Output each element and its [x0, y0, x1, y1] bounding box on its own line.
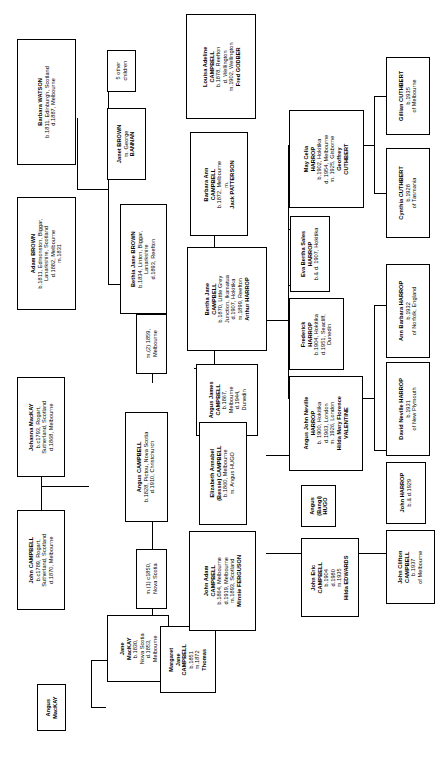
node-text-line: m.1935 [337, 555, 344, 599]
node-text-line: b.1904, Hokitika [313, 314, 320, 355]
node-text-line: b.1904 [323, 555, 330, 599]
node-text-line: m. [222, 160, 229, 208]
connector [41, 486, 76, 487]
node-angus-john-neville-harrop[interactable]: Angus John NevilleHARROPb. 1900, Hokitik… [289, 376, 363, 471]
node-text-line: b.1937 [410, 550, 417, 583]
node-john-campbell[interactable]: John CAMPBELLb.c1789, Rogart,Sutherland,… [17, 510, 65, 610]
node-text-line: of Norfolk, England [411, 281, 418, 341]
node-text-line: m.1831 [56, 219, 63, 289]
node-johanna-mackay[interactable]: Johanna MacKAYb.c1793, Rogart,Sutherland… [17, 377, 65, 477]
node-text: FrederickHARROPb.1904, Hokitikad.1951, S… [300, 314, 333, 355]
node-gillian-cuthbert[interactable]: Gillian CUTHBERTb.1935of Melbourne [386, 57, 430, 135]
node-john-eric-campbell[interactable]: John EricCAMPBELLb.1904d.1980m.1935Hilda… [301, 538, 359, 617]
node-text-line: m. 1926, London [329, 396, 336, 450]
connector [91, 660, 92, 708]
node-text: JaneMacKAYb.1830,Nova Scotiad.1853,Melbo… [118, 633, 158, 664]
node-text-line: Ann Barbara HARROP [398, 281, 405, 341]
node-eva-bertha-sales-harrop[interactable]: Eva Bertha SalesHARROPb.& d. 1907, Hokit… [290, 216, 330, 292]
node-text: John AdamCAMPBELLb.1864, Melbourned.1919… [203, 555, 243, 607]
connector [359, 553, 386, 554]
node-text-line: b.1811, Edmonston, Biggar, [37, 219, 44, 289]
node-text-line: Bethia Jane BROWN [130, 230, 137, 287]
node-david-neville-harrop[interactable]: David Neville HARROPb.1931of New Plymout… [386, 362, 430, 456]
node-text-line: Jack PATTERSON [229, 160, 236, 208]
node-text-line: Margaret [168, 644, 175, 675]
node-text-line: John Adam [203, 555, 210, 607]
node-text-line: b.1864, Melbourne [216, 555, 223, 607]
node-barbara-ann-campbell[interactable]: Barbara AnnCAMPBELLb.1872, Melbournem.Ja… [190, 132, 248, 236]
node-elizabeth-annabel-campbell[interactable]: Elizabeth Annabel(Bessie) CAMPBELLb.1860… [199, 422, 247, 525]
connector [374, 305, 386, 306]
node-text: AngusMacKAY [45, 696, 58, 718]
connector [75, 486, 89, 487]
node-marriage-1[interactable]: m.(1) c1850,Nova Scotia [136, 549, 167, 609]
node-text-line: HARROP [310, 396, 317, 450]
node-text: Janet BROWNm. GeorgeBANNAN [117, 125, 137, 163]
node-text-line: Fred GODBER [234, 42, 241, 91]
node-text-line: b.& d. 1907, Hokitika [313, 228, 320, 281]
node-janet-brown[interactable]: Janet BROWNm. GeorgeBANNAN [107, 108, 146, 180]
node-text-line: m.(1) c1850, [145, 563, 152, 595]
node-text-line: of Tasmania [411, 166, 418, 220]
node-cynthia-cuthbert[interactable]: Cynthia CUTHBERTb.1928of Tasmania [386, 148, 430, 238]
node-john-adam-campbell[interactable]: John AdamCAMPBELLb.1864, Melbourned.1919… [189, 531, 256, 631]
node-text-line: d.1870, Melbourne [48, 534, 55, 587]
node-text-line: HARROP [307, 228, 314, 281]
node-bertha-jane-campbell[interactable]: Bertha JaneCAMPBELLb.1870, Little GreyJu… [187, 247, 267, 351]
node-margaret-jane-campbell[interactable]: MargaretJaneCAMPBELLb.1851m.1872Thomas [160, 626, 216, 693]
node-may-celia-harrop[interactable]: May CeliaHARROPb.1902, Hokitikad. 1954, … [289, 110, 364, 208]
node-text: David Neville HARROPb.1931of New Plymout… [398, 378, 418, 440]
node-text: Barbara AnnCAMPBELLb.1872, Melbournem.Ja… [203, 160, 236, 208]
connector [374, 450, 386, 451]
node-text-line: CAMPBELL [208, 42, 215, 91]
node-text-line: d.1887, Melbourne [50, 66, 57, 138]
connector [77, 118, 78, 190]
node-text: Louisa AdelineCAMPBELLb.1878, Reeftond. … [201, 42, 241, 91]
node-adam-brown[interactable]: Adam BROWNb.1811, Edmonston, Biggar,Lana… [17, 197, 76, 310]
node-text-line: d. Wellington [221, 42, 228, 91]
node-text: Angus JamesCAMPBELLb.1867,Melbourned.194… [207, 382, 247, 419]
node-text-line: Angus James [207, 382, 214, 419]
node-frederick-harrop[interactable]: FrederickHARROPb.1904, Hokitikad.1951, S… [289, 298, 344, 370]
node-john-clifton-campbell[interactable]: John CliftonCAMPBELLb.1937of Melbourne [386, 530, 435, 604]
node-john-harrop[interactable]: John HARROPb.& d.1929 [386, 462, 426, 524]
node-text-line: Eva Bertha Sales [300, 228, 307, 281]
node-louisa-adeline-campbell[interactable]: Louisa AdelineCAMPBELLb.1878, Reeftond. … [186, 14, 256, 119]
node-five-other-children[interactable]: 5 otherchildren [107, 50, 136, 92]
connector [152, 520, 153, 549]
node-text-line: BANNAN [130, 125, 137, 163]
node-text-line: d.1980 [330, 555, 337, 599]
node-bethia-jane-brown[interactable]: Bethia Jane BROWNb.1834, Linton, Biggar,… [120, 204, 167, 314]
node-text-line: CAMPBELL [209, 555, 216, 607]
node-text-line: CAMPBELL [209, 160, 216, 208]
node-text-line: Thomas [201, 644, 208, 675]
node-text-line: b. 1900, Hokitika [316, 396, 323, 450]
node-text-line: m.1902, Wellington [228, 42, 235, 91]
node-barbara-watson[interactable]: Barbara WATSONb.1811, Edinburgh, Scotlan… [17, 39, 76, 165]
node-text: Ann Barbara HARROPb.1932of Norfolk, Engl… [398, 281, 418, 341]
connector [374, 193, 386, 194]
node-text-line: b.1811, Edinburgh, Scotland [43, 66, 50, 138]
node-text-line: Cynthia CUTHBERT [398, 166, 405, 220]
node-marriage-2[interactable]: m.(2) 1859,Melbourne [136, 314, 167, 374]
node-text-line: Lanarkshire, Scotland [43, 219, 50, 289]
node-text-line: Gillian CUTHBERT [398, 71, 405, 121]
node-text-line: Minnie FERGUSON [236, 555, 243, 607]
node-angus-bangi-hugo[interactable]: Angus(Bangi)HUGO [301, 485, 336, 527]
node-angus-campbell[interactable]: Angus CAMPBELLb.1828, Pictou, Nova Scoti… [125, 412, 168, 522]
node-text-line: d. 1954, Melbourne [323, 134, 330, 183]
node-text-line: m.1899, Reefton [237, 275, 244, 323]
node-text-line: of Melbourne [417, 550, 424, 583]
node-angus-mackay[interactable]: AngusMacKAY [37, 684, 66, 731]
node-text: John HARROPb.& d.1929 [399, 473, 412, 513]
family-tree-chart: Barbara WATSONb.1811, Edinburgh, Scotlan… [0, 0, 447, 761]
node-text-line: (Bangi) [315, 496, 322, 516]
node-ann-barbara-harrop[interactable]: Ann Barbara HARROPb.1932of Norfolk, Engl… [386, 264, 430, 358]
node-text: m.(1) c1850,Nova Scotia [145, 563, 158, 595]
node-text-line: d.1853, [145, 633, 152, 664]
node-text-line: Melbourne [152, 329, 159, 358]
connector [374, 305, 375, 451]
node-text-line: b.& d.1929 [406, 473, 413, 513]
node-text: Angus(Bangi)HUGO [309, 496, 329, 516]
node-text-line: Nova Scotia [152, 563, 159, 595]
